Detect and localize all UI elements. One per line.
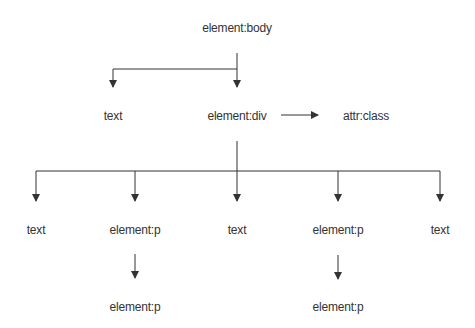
node-element-p: element:p [110, 223, 161, 237]
node-element-div: element:div [207, 109, 266, 123]
node-attr-class: attr:class [343, 109, 389, 123]
node-text: text [431, 223, 450, 237]
node-element-p: element:p [110, 300, 161, 314]
connector-lines [0, 0, 475, 328]
node-element-body: element:body [202, 21, 272, 35]
node-text: text [104, 109, 123, 123]
node-text: text [27, 223, 46, 237]
node-text: text [228, 223, 247, 237]
node-element-p: element:p [313, 300, 364, 314]
node-element-p: element:p [313, 223, 364, 237]
dom-tree-diagram: element:body text element:div attr:class… [0, 0, 475, 328]
